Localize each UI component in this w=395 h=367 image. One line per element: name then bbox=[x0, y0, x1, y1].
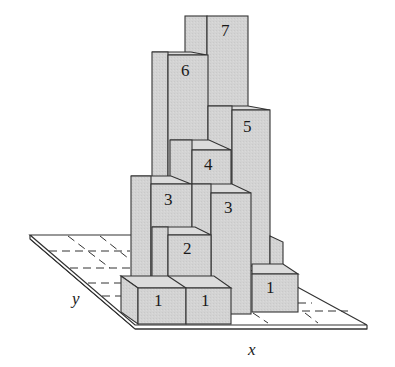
column-label-3a: 3 bbox=[164, 190, 173, 209]
column-label-1a: 1 bbox=[154, 291, 163, 310]
column-back-small bbox=[270, 236, 283, 266]
column-2: 2 bbox=[152, 227, 211, 277]
column-label-7: 7 bbox=[221, 21, 230, 40]
column-label-1b: 1 bbox=[201, 291, 210, 310]
column-label-4: 4 bbox=[204, 155, 213, 174]
x-axis-label: x bbox=[247, 340, 256, 359]
column-1-right: 1 bbox=[252, 264, 298, 312]
column-label-2: 2 bbox=[183, 239, 192, 258]
column-1-front-pair: 1 1 bbox=[121, 276, 231, 324]
column-label-1c: 1 bbox=[266, 278, 275, 297]
column-label-3b: 3 bbox=[224, 198, 233, 217]
column-label-5: 5 bbox=[243, 117, 252, 136]
y-axis-label: y bbox=[70, 289, 80, 308]
column-label-6: 6 bbox=[181, 61, 190, 80]
diagram-3d-bars: 7 6 5 4 3 3 bbox=[0, 0, 395, 367]
